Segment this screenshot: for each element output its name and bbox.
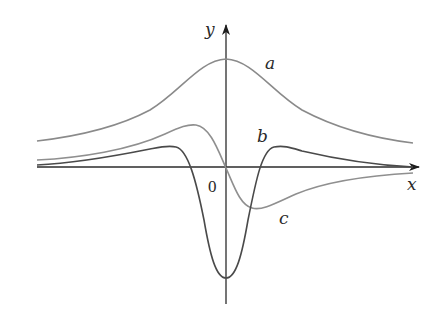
curve-c-label: c: [279, 208, 289, 228]
curve-a-label: a: [265, 53, 275, 73]
curve-b-label: b: [257, 126, 268, 146]
origin-label: 0: [208, 177, 217, 196]
y-axis-label: y: [204, 19, 215, 39]
x-axis-label: x: [407, 174, 417, 194]
curve-a: [37, 59, 413, 143]
function-graph-diagram: y x 0 a b c: [0, 0, 439, 315]
